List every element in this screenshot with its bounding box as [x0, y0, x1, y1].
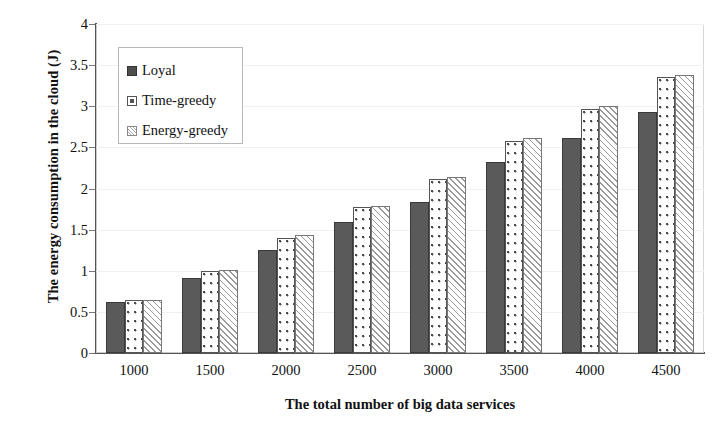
bar-loyal-2000: [258, 250, 277, 353]
bar-loyal-3500: [486, 162, 505, 353]
x-tick-label-1500: 1500: [196, 362, 225, 379]
bar-loyal-1500: [182, 278, 201, 353]
y-tick-mark: [89, 353, 95, 354]
legend-label-loyal: Loyal: [142, 62, 176, 79]
y-tick-label: 4: [28, 16, 88, 33]
legend-item-loyal[interactable]: Loyal: [127, 57, 242, 84]
bar-time-greedy-2000: [277, 238, 296, 353]
bar-loyal-4000: [562, 138, 581, 353]
x-tick-label-4500: 4500: [652, 362, 681, 379]
bar-loyal-2500: [334, 222, 353, 353]
bar-energy-greedy-4000: [599, 106, 618, 353]
y-tick-mark: [89, 271, 95, 272]
bar-time-greedy-3000: [429, 179, 448, 353]
x-axis-title: The total number of big data services: [96, 396, 704, 413]
y-tick-label: 1: [28, 262, 88, 279]
bar-energy-greedy-1500: [219, 270, 238, 353]
chart-page: The energy consumption in the cloud (J) …: [0, 0, 724, 425]
legend-item-time-greedy[interactable]: Time-greedy: [127, 87, 242, 114]
bar-loyal-4500: [638, 112, 657, 353]
gridline: [96, 24, 704, 25]
y-tick-mark: [89, 147, 95, 148]
x-tick-label-2500: 2500: [348, 362, 377, 379]
bar-loyal-1000: [106, 302, 125, 353]
bar-time-greedy-1500: [201, 271, 220, 353]
bar-energy-greedy-1000: [143, 300, 162, 353]
legend-swatch-energy-greedy-icon: [127, 126, 137, 136]
legend-swatch-time-greedy-icon: [127, 96, 137, 106]
y-tick-label: 0.5: [28, 303, 88, 320]
x-tick-label-4000: 4000: [576, 362, 605, 379]
y-tick-label: 2: [28, 180, 88, 197]
bar-energy-greedy-4500: [675, 75, 694, 353]
legend-label-time-greedy: Time-greedy: [142, 92, 216, 109]
bar-energy-greedy-3000: [447, 177, 466, 353]
y-tick-mark: [89, 24, 95, 25]
y-tick-label: 3.5: [28, 57, 88, 74]
y-tick-mark: [89, 106, 95, 107]
x-tick-label-1000: 1000: [120, 362, 149, 379]
bar-time-greedy-4500: [657, 77, 676, 353]
x-tick-label-3000: 3000: [424, 362, 453, 379]
y-tick-mark: [89, 65, 95, 66]
bar-time-greedy-4000: [581, 109, 600, 353]
bar-time-greedy-1000: [125, 300, 144, 353]
legend-swatch-loyal-icon: [127, 66, 137, 76]
bar-time-greedy-2500: [353, 207, 372, 353]
legend-item-energy-greedy[interactable]: Energy-greedy: [127, 117, 242, 144]
chart-legend: Loyal Time-greedy Energy-greedy: [118, 47, 243, 144]
bar-energy-greedy-2500: [371, 206, 390, 353]
y-tick-label: 1.5: [28, 221, 88, 238]
bar-loyal-3000: [410, 202, 429, 353]
y-tick-label: 3: [28, 98, 88, 115]
y-tick-mark: [89, 189, 95, 190]
x-tick-label-3500: 3500: [500, 362, 529, 379]
y-tick-label: 0: [28, 345, 88, 362]
bar-energy-greedy-3500: [523, 138, 542, 353]
legend-label-energy-greedy: Energy-greedy: [142, 122, 228, 139]
y-tick-mark: [89, 312, 95, 313]
y-tick-mark: [89, 230, 95, 231]
y-tick-label: 2.5: [28, 139, 88, 156]
bar-energy-greedy-2000: [295, 235, 314, 353]
bar-time-greedy-3500: [505, 141, 524, 353]
x-tick-label-2000: 2000: [272, 362, 301, 379]
